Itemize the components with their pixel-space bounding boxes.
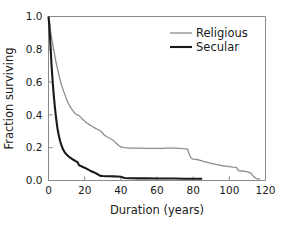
x-tick-label: 60 — [150, 184, 163, 196]
chart-canvas: 0204060801001200.00.20.40.60.81.0 Durati… — [0, 0, 284, 227]
y-tick-label: 0.0 — [26, 174, 43, 186]
x-tick-label: 20 — [78, 184, 91, 196]
x-tick-label: 40 — [114, 184, 127, 196]
y-tick-label: 0.8 — [26, 43, 43, 55]
legend-label: Secular — [196, 40, 239, 54]
y-tick-label: 0.2 — [26, 141, 43, 153]
legend-label: Religious — [196, 26, 248, 40]
legend-item-secular: Secular — [170, 40, 239, 54]
y-tick-label: 0.6 — [26, 76, 43, 88]
series-line-secular — [49, 17, 203, 179]
x-tick-label: 100 — [219, 184, 239, 196]
x-tick-label: 120 — [255, 184, 275, 196]
y-tick-label: 0.4 — [26, 109, 43, 121]
legend-item-religious: Religious — [170, 26, 248, 40]
x-axis-title: Duration (years) — [110, 203, 204, 217]
survival-chart: 0204060801001200.00.20.40.60.81.0 Durati… — [0, 0, 284, 227]
y-tick-label: 1.0 — [26, 10, 43, 22]
chart-legend: ReligiousSecular — [170, 26, 248, 54]
x-tick-label: 80 — [186, 184, 199, 196]
axis-titles-layer: Duration (years)Fraction surviving — [2, 47, 204, 216]
y-axis-title: Fraction surviving — [2, 47, 16, 149]
x-tick-label: 0 — [45, 184, 52, 196]
